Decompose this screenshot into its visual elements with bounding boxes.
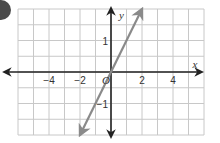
x-tick-label: −2 [74,75,86,86]
y-tick-label: 1 [102,36,108,47]
tick-labels: −4−2241−1xyO [43,9,197,110]
x-tick-label: 4 [170,75,176,86]
origin-label: O [102,74,110,86]
x-axis-label: x [192,58,198,70]
y-axis-label: y [118,9,124,21]
x-tick-label: −4 [43,75,55,86]
x-tick-label: 2 [139,75,145,86]
y-tick-label: −1 [97,99,109,110]
coordinate-plane: −4−2241−1xyO [0,0,220,143]
